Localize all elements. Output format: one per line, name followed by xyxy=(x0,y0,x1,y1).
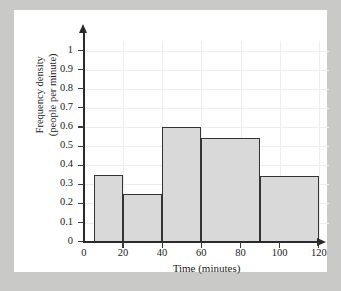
x-axis-title: Time (minutes) xyxy=(84,262,329,274)
y-axis-tick xyxy=(78,69,84,70)
y-axis-tick xyxy=(78,203,84,204)
y-axis-arrow-icon xyxy=(79,24,87,33)
histogram-bar xyxy=(260,176,319,242)
y-axis-tick-label: 0.5 xyxy=(60,140,73,151)
x-axis-tick-label: 120 xyxy=(299,248,339,259)
x-axis-tick-label: 100 xyxy=(260,248,300,259)
y-axis-tick xyxy=(78,107,84,108)
y-axis-tick-label: 0.4 xyxy=(60,159,73,170)
y-axis-tick-label: 1 xyxy=(68,45,73,56)
y-axis-tick-label: 0.2 xyxy=(60,197,73,208)
y-axis-tick-label: 0.1 xyxy=(60,217,73,228)
gridline-vertical xyxy=(319,41,320,242)
y-axis-tick-label: 0.8 xyxy=(60,83,73,94)
y-axis-line xyxy=(83,32,85,242)
y-axis-title-line-2: (people per minute) xyxy=(47,0,60,190)
histogram-bar xyxy=(162,127,201,242)
gridline-horizontal xyxy=(84,70,329,71)
y-axis-tick-label: 0 xyxy=(68,236,73,247)
gridline-horizontal xyxy=(84,89,329,90)
histogram-bar xyxy=(201,138,260,242)
y-axis-tick xyxy=(78,50,84,51)
histogram-bar xyxy=(123,194,162,242)
y-axis-tick xyxy=(78,88,84,89)
y-axis-tick-label: 0.3 xyxy=(60,178,73,189)
histogram-plot: 00.10.20.30.40.50.60.70.80.91 0204060801… xyxy=(14,10,327,272)
x-axis-tick-label: 80 xyxy=(221,248,261,259)
histogram-bar xyxy=(94,175,123,242)
chart-card: 00.10.20.30.40.50.60.70.80.91 0204060801… xyxy=(14,10,327,272)
gridline-horizontal xyxy=(84,127,329,128)
gridline-horizontal xyxy=(84,51,329,52)
y-axis-tick-label: 0.9 xyxy=(60,64,73,75)
y-axis-tick xyxy=(78,222,84,223)
y-axis-tick xyxy=(78,146,84,147)
x-axis-tick-label: 0 xyxy=(64,248,104,259)
gridline-horizontal xyxy=(84,108,329,109)
y-axis-tick xyxy=(78,241,84,242)
y-axis-title: Frequency density (people per minute) xyxy=(34,0,60,190)
image-background: 00.10.20.30.40.50.60.70.80.91 0204060801… xyxy=(0,0,341,291)
x-axis-tick-label: 60 xyxy=(181,248,221,259)
y-axis-tick-label: 0.7 xyxy=(60,102,73,113)
y-axis-title-line-1: Frequency density xyxy=(34,0,47,190)
y-axis-tick-label: 0.6 xyxy=(60,121,73,132)
x-axis-tick-label: 40 xyxy=(142,248,182,259)
y-axis-tick xyxy=(78,165,84,166)
y-axis-tick xyxy=(78,126,84,127)
x-axis-tick-label: 20 xyxy=(103,248,143,259)
y-axis-tick xyxy=(78,184,84,185)
